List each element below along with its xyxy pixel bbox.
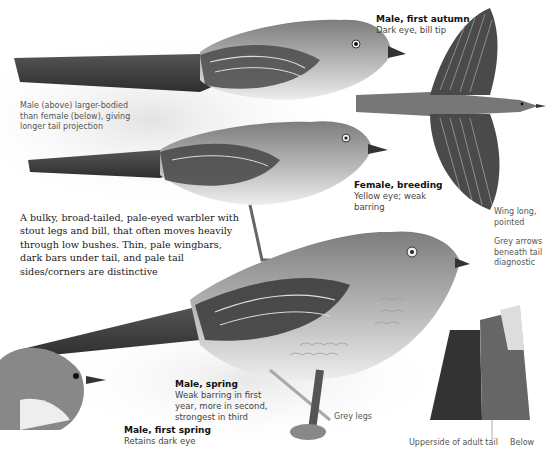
label-male-spring: Male, spring Weak barring in first year,… [175, 379, 268, 423]
label-subtitle: barring [354, 202, 443, 213]
field-guide-plate: Male, first autumn Dark eye, bill tip Ma… [0, 0, 549, 454]
note-grey-arrows: Grey arrows beneath tail diagnostic [494, 237, 542, 269]
label-male-first-autumn: Male, first autumn Dark eye, bill tip [376, 14, 470, 36]
note-line: Wing long, [494, 207, 536, 218]
species-description: A bulky, broad-tailed, pale-eyed warbler… [20, 211, 240, 278]
note-line: diagnostic [494, 258, 542, 269]
label-subtitle: year, more in second, [175, 401, 268, 412]
note-line: longer tail projection [20, 122, 130, 133]
label-title: Male, first spring [124, 425, 211, 436]
note-line: Male (above) larger-bodied [20, 101, 130, 112]
label-subtitle: strongest in third [175, 412, 268, 423]
label-title: Male, first autumn [376, 14, 470, 25]
note-line: Grey arrows [494, 237, 542, 248]
label-subtitle: Weak barring in first [175, 390, 268, 401]
label-subtitle: Yellow eye; weak [354, 191, 443, 202]
note-tail-below: Below [510, 438, 534, 449]
label-title: Female, breeding [354, 180, 443, 191]
label-female-breeding: Female, breeding Yellow eye; weak barrin… [354, 180, 443, 213]
note-wing: Wing long, pointed [494, 207, 536, 228]
tail-detail-illustration [430, 305, 530, 440]
label-male-first-spring: Male, first spring Retains dark eye [124, 425, 211, 447]
note-line: beneath tail [494, 248, 542, 259]
note-line: than female (below), giving [20, 112, 130, 123]
label-title: Male, spring [175, 379, 268, 390]
label-subtitle: Retains dark eye [124, 436, 211, 447]
note-line: pointed [494, 218, 536, 229]
note-legs: Grey legs [334, 412, 372, 423]
label-subtitle: Dark eye, bill tip [376, 25, 470, 36]
note-tail-upperside: Upperside of adult tail [409, 438, 498, 449]
note-size-comparison: Male (above) larger-bodied than female (… [20, 101, 130, 133]
